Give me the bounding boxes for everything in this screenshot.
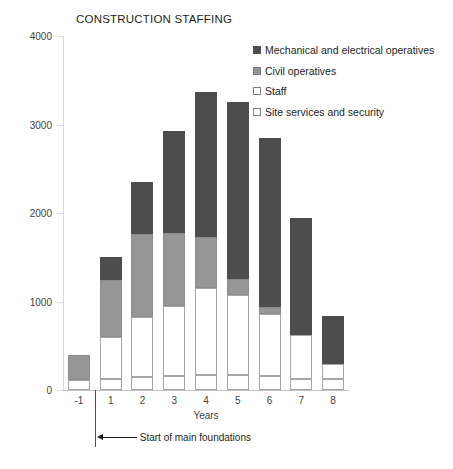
bar-segment[interactable] (322, 316, 344, 365)
x-axis-tick-label: 8 (318, 395, 348, 406)
x-axis-tick-label: 6 (255, 395, 285, 406)
foundation-marker-line (95, 390, 96, 447)
x-axis-line (63, 390, 349, 391)
bar-segment[interactable] (100, 280, 122, 337)
legend-label: Staff (265, 85, 286, 97)
bar-segment[interactable] (322, 364, 344, 379)
bar-segment[interactable] (68, 380, 90, 390)
chart-title: CONSTRUCTION STAFFING (76, 13, 232, 25)
bar-segment[interactable] (259, 376, 281, 390)
bar-segment[interactable] (195, 288, 217, 375)
bar-segment[interactable] (68, 355, 90, 381)
bar-segment[interactable] (195, 92, 217, 237)
legend-item[interactable]: Civil operatives (253, 65, 434, 77)
bar-segment[interactable] (131, 182, 153, 234)
bar-segment[interactable] (163, 131, 185, 234)
bar-segment[interactable] (163, 233, 185, 306)
x-axis-tick-label: 1 (96, 395, 126, 406)
legend-label: Civil operatives (265, 65, 336, 77)
bar-segment[interactable] (195, 237, 217, 288)
bar-segment[interactable] (163, 306, 185, 376)
y-axis-tick-label: 3000 (30, 119, 52, 130)
construction-staffing-chart: CONSTRUCTION STAFFING 01000200030004000 … (0, 0, 453, 469)
y-axis-tick (57, 390, 63, 391)
bar-segment[interactable] (227, 295, 249, 375)
legend-label: Mechanical and electrical operatives (265, 44, 434, 56)
y-axis-tick-label: 4000 (30, 31, 52, 42)
y-axis-tick-label: 1000 (30, 296, 52, 307)
bar-segment[interactable] (195, 375, 217, 390)
legend-swatch-icon (253, 46, 261, 54)
bar-segment[interactable] (100, 379, 122, 390)
arrow-left-icon (97, 433, 137, 442)
bar-segment[interactable] (163, 376, 185, 390)
legend-item[interactable]: Mechanical and electrical operatives (253, 44, 434, 56)
x-axis-tick-label: 3 (159, 395, 189, 406)
chart-legend: Mechanical and electrical operativesCivi… (253, 44, 434, 118)
foundation-annotation: Start of main foundations (97, 432, 251, 443)
bar-segment[interactable] (131, 317, 153, 376)
x-axis-title: Years (63, 410, 349, 421)
bar-segment[interactable] (131, 234, 153, 317)
bar-segment[interactable] (227, 375, 249, 390)
bar-segment[interactable] (290, 218, 312, 335)
bar-segment[interactable] (100, 337, 122, 379)
bar-segment[interactable] (227, 279, 249, 295)
legend-swatch-icon (253, 67, 261, 75)
legend-label: Site services and security (265, 106, 384, 118)
bar-segment[interactable] (227, 102, 249, 279)
x-axis-tick-label: -1 (64, 395, 94, 406)
bar-segment[interactable] (259, 307, 281, 314)
legend-item[interactable]: Staff (253, 85, 434, 97)
bar-segment[interactable] (290, 335, 312, 378)
bar-segment[interactable] (259, 138, 281, 307)
legend-swatch-icon (253, 108, 261, 116)
foundation-annotation-label: Start of main foundations (137, 432, 251, 443)
x-axis-tick-label: 4 (191, 395, 221, 406)
bar-segment[interactable] (131, 377, 153, 390)
bar-segment[interactable] (100, 257, 122, 280)
bar-segment[interactable] (322, 379, 344, 390)
legend-swatch-icon (253, 87, 261, 95)
y-axis-tick-label: 2000 (30, 208, 52, 219)
y-axis-tick-label: 0 (46, 385, 52, 396)
bar-segment[interactable] (259, 314, 281, 376)
x-axis-tick-label: 5 (223, 395, 253, 406)
x-axis-tick-label: 2 (127, 395, 157, 406)
x-axis-tick-label: 7 (286, 395, 316, 406)
legend-item[interactable]: Site services and security (253, 106, 434, 118)
bar-segment[interactable] (290, 379, 312, 391)
